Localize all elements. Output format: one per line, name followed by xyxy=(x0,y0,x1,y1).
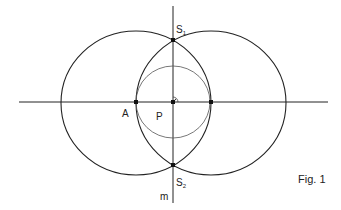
label-S2: S2 xyxy=(176,177,187,189)
point-A xyxy=(134,100,138,104)
label-m: m xyxy=(160,191,168,202)
label-A: A xyxy=(122,108,129,119)
right-angle-dot xyxy=(175,99,176,100)
point-S1 xyxy=(171,38,175,42)
point-S2 xyxy=(171,163,175,167)
label-S1: S1 xyxy=(176,24,187,36)
figure-caption: Fig. 1 xyxy=(298,173,326,185)
point-P xyxy=(171,100,175,104)
point-B xyxy=(209,100,213,104)
label-P: P xyxy=(156,111,163,122)
geometry-figure: S1 S2 A P m Fig. 1 xyxy=(0,0,341,210)
